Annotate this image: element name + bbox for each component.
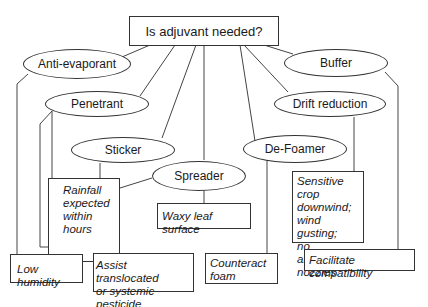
adjuvant-sticker: Sticker (71, 137, 175, 163)
adjuvant-spreader: Spreader (152, 161, 246, 191)
adjuvant-buffer: Buffer (284, 49, 388, 77)
adjuvant-anti-evaporant: Anti-evaporant (23, 49, 131, 79)
condition-rainfall: Rainfall expected within hours (48, 178, 120, 262)
condition-counteract-foam: Counteract foam (205, 253, 278, 284)
root-question-box: Is adjuvant needed? (129, 16, 279, 46)
adjuvant-de-foamer: De-Foamer (243, 135, 347, 163)
condition-waxy-leaf: Waxy leaf surface (157, 203, 251, 229)
condition-assist-translocated: Assist translocated or systemic pesticid… (93, 253, 194, 292)
condition-sensitive-crop: Sensitive crop downwind; wind gusting; n… (292, 171, 364, 243)
condition-facilitate-compatibility: Facilitate compatibility (304, 249, 415, 271)
adjuvant-drift-reduction: Drift reduction (274, 91, 386, 117)
condition-low-humidity: Low humidity (10, 254, 83, 283)
adjuvant-penetrant: Penetrant (45, 91, 149, 117)
